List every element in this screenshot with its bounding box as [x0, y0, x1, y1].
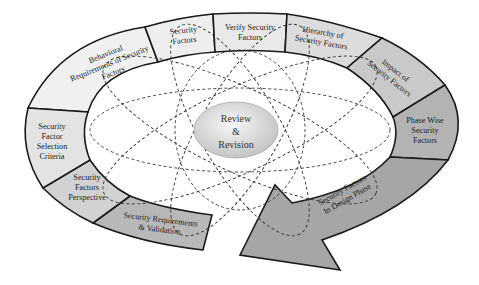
- label-perspective-1: Security: [73, 173, 101, 182]
- label-selection-3: Selection: [37, 142, 67, 151]
- label-verify-1: Verify Security: [225, 23, 276, 32]
- label-perspective-2: Factors: [75, 183, 99, 192]
- segment-design-phase-arrow: [240, 157, 448, 270]
- label-phase-wise-2: Security: [411, 126, 439, 135]
- center-node: Review & Revision: [194, 102, 278, 158]
- center-label-line-2: &: [232, 126, 240, 137]
- label-selection-1: Security: [38, 122, 66, 131]
- review-revision-cycle-diagram: Review & Revision Behavioral Requirement…: [0, 0, 479, 285]
- label-phase-wise-1: Phase Wise: [406, 116, 444, 125]
- label-selection-4: Criteria: [39, 152, 64, 161]
- center-label-line-3: Revision: [218, 139, 254, 150]
- center-label-line-1: Review: [221, 113, 252, 124]
- label-perspective-3: Perspective: [68, 193, 106, 202]
- label-selection-2: Factor: [42, 132, 63, 141]
- label-phase-wise-3: Factors: [413, 136, 437, 145]
- label-verify-2: Factors: [238, 33, 262, 42]
